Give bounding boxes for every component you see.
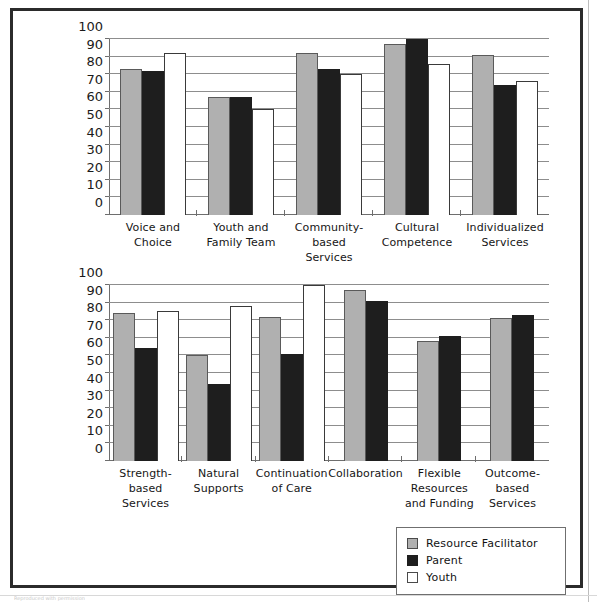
y-tick-label: 40: [86, 371, 103, 384]
bar: [208, 384, 230, 461]
bar: [428, 64, 450, 215]
y-tick-label: 50: [86, 108, 103, 121]
x-axis-label-line: Choice: [109, 236, 197, 251]
x-axis-label: Flexible Resourcesand Funding: [403, 467, 476, 512]
bar: [340, 74, 362, 215]
legend-swatch-yth: [407, 572, 418, 583]
bar: [252, 109, 274, 215]
x-axis-labels-top: Voice andChoiceYouth andFamily TeamCommu…: [109, 221, 549, 266]
bar-group: [373, 39, 461, 215]
bar: [366, 301, 388, 461]
x-axis-label: CulturalCompetence: [373, 221, 461, 266]
y-tick-label: 10: [86, 424, 103, 437]
y-tick-label: 20: [86, 406, 103, 419]
legend-item: Resource Facilitator: [407, 535, 555, 552]
bar-group: [329, 285, 402, 461]
figure-page: Percentage Fidelity 01020304050607080901…: [0, 0, 597, 602]
bar: [120, 69, 142, 215]
bar: [157, 311, 179, 461]
bar-group: [476, 285, 549, 461]
bar: [208, 97, 230, 215]
plot-area-bottom: 0102030405060708090100: [109, 285, 549, 461]
y-tick-label: 70: [86, 318, 103, 331]
x-axis-label-line: Community-based: [285, 221, 373, 251]
bar-group: [285, 39, 373, 215]
y-tick-label: 70: [86, 72, 103, 85]
x-axis-label: IndividualizedServices: [461, 221, 549, 266]
y-tick-label: 100: [78, 20, 103, 33]
x-axis-label-line: Services: [109, 497, 182, 512]
legend-label: Resource Facilitator: [426, 537, 538, 550]
legend-swatch-par: [407, 555, 418, 566]
bar: [384, 44, 406, 215]
bar: [512, 315, 534, 461]
bar-groups-top: [109, 39, 549, 215]
x-axis-label-line: Continuation: [255, 467, 328, 482]
bar: [516, 81, 538, 215]
bar-group: [182, 285, 255, 461]
y-tick-label: 10: [86, 178, 103, 191]
y-tick-label: 30: [86, 143, 103, 156]
bar: [303, 285, 325, 461]
x-axis-label: Community-basedServices: [285, 221, 373, 266]
faint-caption: Reproduced with permission: [14, 595, 85, 602]
figure-frame: Percentage Fidelity 01020304050607080901…: [10, 8, 583, 588]
chart-panel-bottom: Percentage Fidelity 01020304050607080901…: [31, 269, 566, 517]
y-tick-label: 60: [86, 90, 103, 103]
bar: [142, 71, 164, 215]
bar: [344, 290, 366, 461]
x-axis-label-line: Services: [476, 497, 549, 512]
y-tick-label: 20: [86, 160, 103, 173]
bar: [406, 39, 428, 215]
bar: [296, 53, 318, 215]
page-bottom-rule: [0, 595, 597, 596]
legend-swatch-rf: [407, 538, 418, 549]
x-axis-label: Voice andChoice: [109, 221, 197, 266]
bar: [230, 97, 252, 215]
bar: [259, 317, 281, 461]
chart-panel-top: Percentage Fidelity 01020304050607080901…: [31, 25, 566, 270]
y-tick-label: 30: [86, 389, 103, 402]
y-tick-label: 60: [86, 336, 103, 349]
bar: [494, 85, 516, 215]
x-axis-label-line: Competence: [373, 236, 461, 251]
x-axis-label-line: Cultural: [373, 221, 461, 236]
y-tick-label: 0: [95, 196, 103, 209]
bar: [472, 55, 494, 215]
x-axis-label-line: Youth and: [197, 221, 285, 236]
legend-item: Youth: [407, 569, 555, 586]
x-axis-label: Youth andFamily Team: [197, 221, 285, 266]
x-axis-label-line: Services: [285, 251, 373, 266]
bar-group: [109, 39, 197, 215]
legend-label: Parent: [426, 554, 462, 567]
y-tick-label: 90: [86, 37, 103, 50]
x-axis-label-line: Collaboration: [328, 467, 403, 482]
x-axis-labels-bottom: Strength-basedServicesNatural SupportsCo…: [109, 467, 549, 512]
bar-group: [197, 39, 285, 215]
x-axis-label: Outcome-basedServices: [476, 467, 549, 512]
y-tick-label: 0: [95, 442, 103, 455]
bar-group: [109, 285, 182, 461]
x-axis-label-line: Individualized: [461, 221, 549, 236]
bar-group: [256, 285, 329, 461]
plot-area-top: 0102030405060708090100: [109, 39, 549, 215]
bar: [417, 341, 439, 461]
y-tick-label: 80: [86, 301, 103, 314]
y-tick-label: 100: [78, 266, 103, 279]
x-axis-label-line: Services: [461, 236, 549, 251]
bar-group: [461, 39, 549, 215]
bar: [439, 336, 461, 461]
bar-groups-bottom: [109, 285, 549, 461]
bar: [490, 318, 512, 461]
x-axis-label-line: and Funding: [403, 497, 476, 512]
bar: [164, 53, 186, 215]
bar: [186, 355, 208, 461]
x-axis-label-line: Natural Supports: [182, 467, 255, 497]
bar-group: [402, 285, 475, 461]
legend-item: Parent: [407, 552, 555, 569]
x-axis-label-line: Strength-based: [109, 467, 182, 497]
x-axis-label: Natural Supports: [182, 467, 255, 512]
x-axis-label-line: Family Team: [197, 236, 285, 251]
x-axis-label: Collaboration: [328, 467, 403, 512]
bar: [281, 354, 303, 461]
